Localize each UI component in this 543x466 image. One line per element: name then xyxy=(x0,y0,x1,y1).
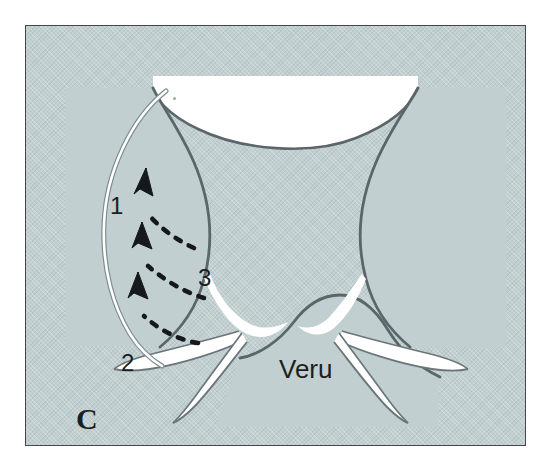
callout-label-2: 2 xyxy=(121,351,134,375)
left-lobe xyxy=(66,88,210,347)
panel-letter-label: C xyxy=(76,404,98,434)
illustration-artwork xyxy=(26,26,526,446)
veru-label: Veru xyxy=(279,356,333,382)
upper-lumen xyxy=(153,76,418,149)
print-speck xyxy=(173,97,176,100)
callout-label-1: 1 xyxy=(110,194,123,218)
figure-page: 1 2 3 Veru C xyxy=(0,0,543,466)
illustration-panel: 1 2 3 Veru C xyxy=(25,25,526,446)
callout-label-3: 3 xyxy=(198,266,211,290)
